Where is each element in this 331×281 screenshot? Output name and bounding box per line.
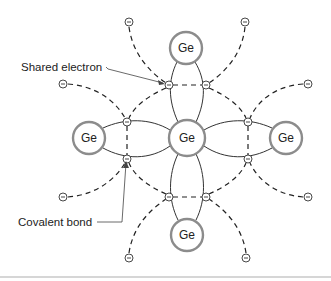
atom-label: Ge [278, 131, 294, 145]
germanium-lattice-diagram: Ge Ge Ge Ge Ge Shared elec [0, 0, 331, 281]
electron-icon [202, 81, 210, 89]
atom-ge-top: Ge [170, 32, 202, 64]
atom-label: Ge [179, 228, 195, 242]
electron-icon [123, 155, 131, 163]
electron-icon [244, 155, 252, 163]
atom-ge-right: Ge [270, 122, 302, 154]
atom-ge-left: Ge [73, 122, 105, 154]
shared-electron-label: Shared electron [21, 61, 102, 73]
electron-icon [242, 254, 250, 262]
electron-icon [125, 18, 133, 26]
electron-icon [59, 193, 67, 201]
atom-label: Ge [178, 41, 194, 55]
electron-icon [165, 193, 173, 201]
electron-icon [304, 193, 312, 201]
electron-icon [241, 18, 249, 26]
electron-icon [304, 80, 312, 88]
electron-icon [202, 193, 210, 201]
electron-icon [244, 118, 252, 126]
electron-icon [165, 81, 173, 89]
electron-icon [123, 118, 131, 126]
annotation-covalent-bond: Covalent bond [18, 161, 129, 228]
electron-icon [125, 254, 133, 262]
annotation-shared-electron: Shared electron [21, 61, 165, 85]
electron-icon [59, 80, 67, 88]
atom-ge-center: Ge [169, 120, 205, 156]
atom-label: Ge [81, 131, 97, 145]
covalent-bond-label: Covalent bond [18, 216, 92, 228]
atom-label: Ge [179, 131, 195, 145]
atom-ge-bottom: Ge [171, 219, 203, 251]
